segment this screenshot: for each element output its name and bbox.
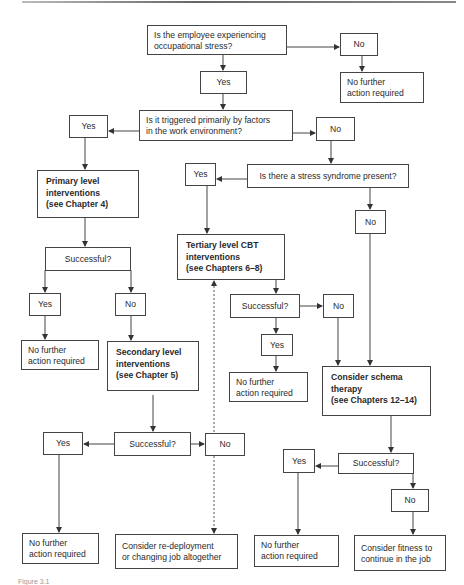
schema-no-label: No — [391, 489, 429, 512]
q2-yes-label: Yes — [69, 115, 108, 138]
tertiary-yes-label: Yes — [261, 334, 293, 356]
secondary-no-label: No — [205, 433, 245, 456]
secondary-yes-result: No further action required — [22, 533, 99, 564]
primary-no-label: No — [115, 293, 146, 316]
secondary-interventions: Secondary level interventions (see Chapt… — [107, 341, 199, 391]
question-work-environment: Is it triggered primarily by factors in … — [139, 110, 293, 141]
q1-no-result: No further action required — [340, 72, 424, 103]
secondary-no-result: Consider re-deployment or changing job a… — [115, 534, 238, 569]
question-occupational-stress: Is the employee experiencing occupationa… — [147, 25, 287, 55]
q3-no-label: No — [355, 210, 386, 234]
q3-yes-label: Yes — [185, 163, 216, 186]
secondary-successful-question: Successful? — [114, 432, 191, 456]
tertiary-successful-question: Successful? — [230, 294, 300, 318]
tertiary-yes-result: No further action required — [229, 372, 308, 402]
schema-no-result: Consider fitness to continue in the job — [354, 535, 446, 571]
secondary-yes-label: Yes — [43, 432, 83, 455]
primary-yes-label: Yes — [29, 293, 61, 316]
primary-successful-question: Successful? — [45, 247, 131, 271]
primary-yes-result: No further action required — [21, 340, 99, 370]
tertiary-no-label: No — [323, 294, 354, 318]
question-stress-syndrome: Is there a stress syndrome present? — [247, 164, 409, 188]
tertiary-cbt-interventions: Tertiary level CBT interventions (see Ch… — [177, 234, 285, 280]
primary-interventions: Primary level interventions (see Chapter… — [37, 170, 139, 218]
schema-yes-label: Yes — [283, 449, 315, 473]
schema-therapy: Consider schema therapy (see Chapters 12… — [322, 366, 431, 416]
q1-no-label: No — [340, 33, 378, 56]
q2-no-label: No — [316, 117, 355, 141]
schema-yes-result: No further action required — [254, 535, 339, 567]
schema-successful-question: Successful? — [338, 453, 414, 474]
q1-yes-label: Yes — [200, 71, 247, 94]
figure-caption: Figure 3.1 — [18, 578, 50, 585]
